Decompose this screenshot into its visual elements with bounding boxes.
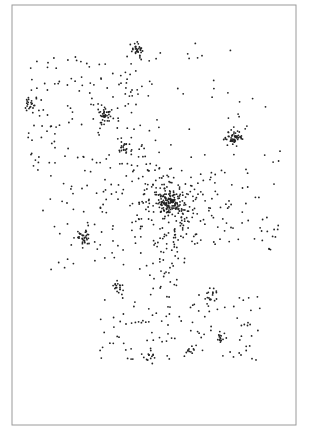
data-point [123, 342, 125, 344]
data-point [117, 117, 119, 119]
data-point [190, 351, 192, 353]
data-point [113, 326, 115, 328]
data-point [166, 296, 168, 298]
data-point [101, 124, 103, 126]
data-point [159, 206, 161, 208]
data-point [147, 359, 149, 361]
data-point [112, 285, 114, 287]
data-point [233, 306, 235, 308]
data-point [99, 350, 101, 352]
data-point [97, 103, 99, 105]
data-point [158, 126, 160, 128]
data-point [250, 309, 252, 311]
data-point [272, 236, 274, 238]
data-point [129, 205, 131, 207]
data-point [220, 338, 222, 340]
data-point [112, 228, 114, 230]
data-point [139, 57, 141, 59]
data-point [67, 148, 69, 150]
data-point [101, 211, 103, 213]
data-point [247, 220, 249, 222]
data-point [190, 307, 192, 309]
data-point [76, 60, 78, 62]
data-point [116, 280, 118, 282]
data-point [33, 125, 35, 127]
data-point [35, 159, 37, 161]
data-point [119, 163, 121, 165]
data-point [200, 337, 202, 339]
data-point [175, 220, 177, 222]
data-point [184, 258, 186, 260]
data-point [202, 180, 204, 182]
data-point [237, 238, 239, 240]
data-point [237, 113, 239, 115]
data-point [150, 294, 152, 296]
data-point [176, 247, 178, 249]
data-point [144, 183, 146, 185]
data-point [174, 234, 176, 236]
data-point [220, 340, 222, 342]
data-point [87, 225, 89, 227]
data-point [114, 288, 116, 290]
data-point [163, 207, 165, 209]
data-point [136, 51, 138, 53]
data-point [169, 182, 171, 184]
data-point [194, 188, 196, 190]
data-point [130, 358, 132, 360]
data-point [36, 87, 38, 89]
data-point [161, 177, 163, 179]
data-point [121, 146, 123, 148]
data-point [142, 50, 144, 52]
data-point [236, 136, 238, 138]
data-point [224, 332, 226, 334]
data-point [227, 144, 229, 146]
data-point [222, 338, 224, 340]
data-point [239, 101, 241, 103]
data-point [242, 187, 244, 189]
data-point [202, 194, 204, 196]
data-point [61, 200, 63, 202]
data-point [140, 228, 142, 230]
data-point [159, 258, 161, 260]
data-point [177, 239, 179, 241]
data-point [101, 104, 103, 106]
data-point [154, 169, 156, 171]
data-point [151, 363, 153, 365]
data-point [207, 297, 209, 299]
data-point [252, 98, 254, 100]
data-point [102, 119, 104, 121]
data-point [200, 220, 202, 222]
data-point [132, 171, 134, 173]
data-point [140, 252, 142, 254]
data-point [171, 249, 173, 251]
data-point [247, 322, 249, 324]
data-point [130, 154, 132, 156]
data-point [169, 190, 171, 192]
data-point [158, 199, 160, 201]
data-point [257, 330, 259, 332]
data-point [233, 133, 235, 135]
data-point [167, 333, 169, 335]
data-point [41, 125, 43, 127]
data-point [214, 243, 216, 245]
data-point [139, 124, 141, 126]
data-point [121, 141, 123, 143]
data-point [111, 193, 113, 195]
data-point [211, 172, 213, 174]
data-point [151, 332, 153, 334]
data-point [147, 95, 149, 97]
data-point [94, 224, 96, 226]
data-point [259, 307, 261, 309]
data-point [107, 111, 109, 113]
data-point [209, 179, 211, 181]
data-point [173, 246, 175, 248]
data-point [182, 237, 184, 239]
data-point [130, 137, 132, 139]
data-point [182, 227, 184, 229]
data-point [182, 194, 184, 196]
data-point [215, 290, 217, 292]
data-point [149, 163, 151, 165]
data-point [90, 103, 92, 105]
data-point [219, 331, 221, 333]
data-point [26, 110, 28, 112]
